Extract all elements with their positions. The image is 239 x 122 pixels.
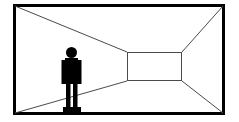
figure-leg-right [73,84,78,108]
figure-base-pedestal [63,107,81,112]
illustration-canvas [0,0,239,122]
figure-arm-right [78,60,82,84]
figure-torso [65,58,78,84]
figure-head [66,47,77,58]
back-wall-rectangle [128,53,182,81]
scene-background [0,0,239,122]
figure-arm-left [62,60,66,84]
perspective-room-scene [0,0,239,122]
figure-leg-left [66,84,71,108]
